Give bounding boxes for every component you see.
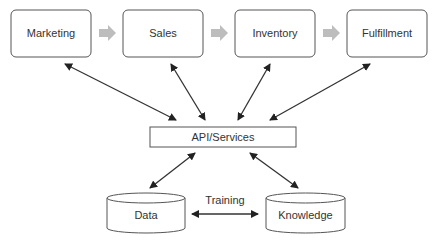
marketing-label: Marketing [11,28,91,39]
data-label: Data [107,210,185,221]
fulfillment-label: Fulfillment [347,28,427,39]
training-label: Training [195,195,255,206]
sales-label: Sales [123,28,203,39]
knowledge-label: Knowledge [266,210,345,221]
inventory-label: Inventory [235,28,315,39]
api-services-label: API/Services [150,132,296,143]
